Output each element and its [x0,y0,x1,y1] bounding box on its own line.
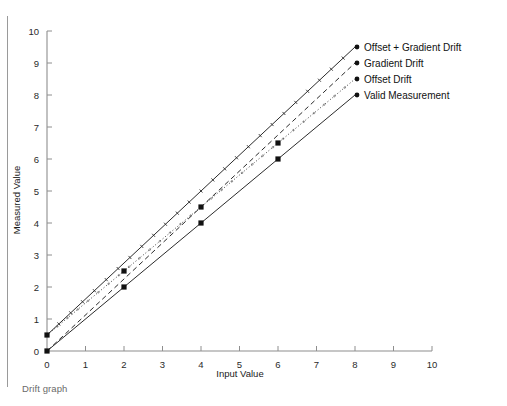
series-node-2 [210,198,212,200]
series-node-2 [221,189,223,191]
data-marker [44,348,49,353]
drift-graph-figure: 012345678910 012345678910 Offset + Gradi… [0,0,507,406]
legend-dot-2 [355,77,360,82]
data-marker [121,268,126,273]
legend-dot-3 [355,93,360,98]
y-tick-label: 3 [34,250,39,261]
y-tick-label: 8 [34,90,39,101]
series-node-2 [282,138,284,140]
y-tick-label: 6 [34,154,39,165]
data-marker [275,140,280,145]
chart-marker-layer [44,140,280,353]
legend-label-1: Gradient Drift [364,58,424,69]
legend-label-2: Offset Drift [364,74,412,85]
x-tick-label: 10 [427,359,438,370]
data-marker [198,220,203,225]
series-node-2 [139,257,141,259]
data-marker [198,204,203,209]
series-node-2 [128,266,130,268]
series-node-2 [272,146,274,148]
series-node-2 [262,155,264,157]
legend-dot-0 [355,45,360,50]
data-marker [121,284,126,289]
series-node-2 [190,215,192,217]
x-tick-label: 3 [160,359,165,370]
series-node-2 [334,95,336,97]
x-tick-label: 9 [391,359,396,370]
series-node-2 [323,104,325,106]
x-tick-label: 0 [44,359,49,370]
y-tick-label: 0 [34,346,39,357]
data-marker [275,156,280,161]
series-node-2 [252,164,254,166]
data-marker [44,332,49,337]
x-tick-label: 4 [198,359,203,370]
series-node-2 [344,87,346,89]
legend-label-3: Valid Measurement [364,90,450,101]
y-tick-label: 5 [34,186,39,197]
y-tick-label: 4 [34,218,39,229]
series-node-2 [77,309,79,311]
x-tick-label: 1 [83,359,88,370]
y-tick-label: 1 [34,314,39,325]
drift-chart-svg: 012345678910 012345678910 Offset + Gradi… [0,0,507,406]
y-tick-label: 7 [34,122,39,133]
series-node-2 [149,249,151,251]
x-axis-title: Input Value [216,368,263,379]
x-tick-label: 2 [121,359,126,370]
series-node-2 [67,317,69,319]
legend-dot-1 [355,61,360,66]
figure-caption: Drift graph [22,383,67,394]
y-axis-tick-labels: 012345678910 [28,26,39,357]
x-tick-label: 8 [352,359,357,370]
series-node-2 [98,292,100,294]
x-axis-ticks [86,346,433,351]
y-tick-label: 9 [34,58,39,69]
y-axis-ticks [47,31,52,319]
series-node-2 [159,240,161,242]
x-tick-label: 6 [275,359,280,370]
chart-legend-layer: Offset + Gradient DriftGradient DriftOff… [355,42,462,101]
y-tick-label: 10 [28,26,39,37]
y-axis-title: Measured Value [11,166,22,234]
y-tick-label: 2 [34,282,39,293]
series-node-2 [313,112,315,114]
legend-label-0: Offset + Gradient Drift [364,42,462,53]
x-tick-label: 7 [314,359,319,370]
chart-series-layer [47,47,355,351]
series-node-2 [87,300,89,302]
